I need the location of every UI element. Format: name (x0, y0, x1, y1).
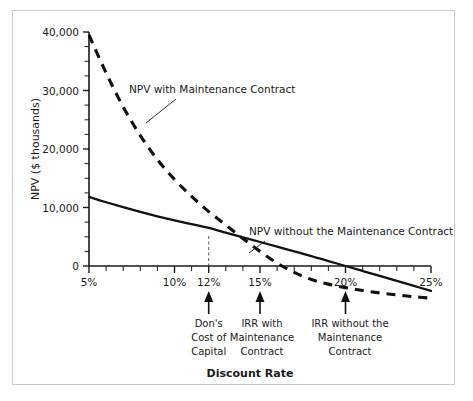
x-tick-label: 10% (163, 276, 186, 288)
y-tick-label: 20,000 (42, 143, 79, 155)
y-axis-title: NPV ($ thousands) (29, 98, 42, 200)
annotation-arrows (204, 291, 350, 314)
annotation-label-irr-with-maintenance-contract: IRR with Maintenance Contract (230, 318, 294, 357)
y-axis-tick-labels: 40,000 30,000 20,000 10,000 0 (42, 26, 79, 272)
arrow-irr-with-maintenance-contract (256, 291, 265, 314)
x-axis-title: Discount Rate (207, 367, 294, 380)
series-line-npv-with-maintenance-contract (89, 35, 431, 298)
annotation-line: Maintenance (318, 332, 382, 343)
annotation-line: IRR with (241, 318, 282, 329)
y-tick-label: 10,000 (42, 202, 79, 214)
annotation-line: IRR without the (311, 318, 388, 329)
arrow-dons-cost-of-capital (204, 291, 213, 314)
annotation-line: Contract (328, 346, 371, 357)
y-axis-major-ticks (83, 32, 89, 266)
annotation-label-irr-without-the-maintenance-contract: IRR without the Maintenance Contract (311, 318, 388, 357)
x-tick-label: 15% (248, 276, 271, 288)
callout-leader-with-contract (146, 99, 176, 123)
y-tick-label: 40,000 (42, 26, 79, 38)
npv-discount-rate-chart: 40,000 30,000 20,000 10,000 0 NPV ($ tho… (13, 11, 456, 386)
chart-figure-frame: 40,000 30,000 20,000 10,000 0 NPV ($ tho… (12, 10, 455, 385)
callout-leader-without-contract (249, 241, 265, 253)
x-tick-label: 5% (81, 276, 98, 288)
x-tick-label: 12% (197, 276, 220, 288)
annotation-line: Contract (240, 346, 283, 357)
x-tick-label: 25% (419, 276, 442, 288)
annotation-line: Cost of (191, 332, 227, 343)
y-tick-label: 0 (72, 260, 79, 272)
annotation-line: Capital (191, 346, 226, 357)
series-callout-without-contract: NPV without the Maintenance Contract (249, 225, 453, 237)
arrow-irr-without-the-maintenance-contract (341, 291, 350, 314)
annotation-line: Maintenance (230, 332, 294, 343)
annotation-label-dons-cost-of-capital: Don's Cost of Capital (191, 318, 227, 357)
annotation-line: Don's (195, 318, 223, 329)
y-tick-label: 30,000 (42, 85, 79, 97)
series-callout-with-contract: NPV with Maintenance Contract (129, 83, 295, 95)
